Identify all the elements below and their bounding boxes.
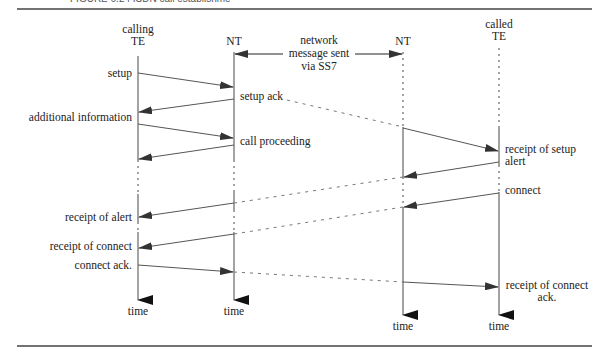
sequence-diagram: calling TE NT NT called TE network messa… <box>0 0 607 354</box>
msg-receipt-of-connect-arrow <box>139 234 234 248</box>
msg-setup-ack-arrow <box>139 99 234 112</box>
calling-te-label-line2: TE <box>131 35 145 47</box>
msg-receipt-of-alert-arrow <box>139 203 234 217</box>
msg-call-proceeding-label: call proceeding <box>240 135 311 148</box>
called-te-label-line2: TE <box>492 30 506 42</box>
network-note-line3: via SS7 <box>301 60 337 72</box>
msg-connect-ack-network <box>234 272 403 282</box>
called-te-label-line1: called <box>485 18 513 30</box>
msg-setup-arrow <box>138 73 233 87</box>
network-note-line2: message sent <box>289 47 350 60</box>
msg-setup-label: setup <box>108 67 133 80</box>
time-label-calling-te: time <box>128 305 148 317</box>
msg-receipt-of-setup-arrow <box>403 128 498 151</box>
nt-right-label: NT <box>395 35 410 47</box>
msg-call-proceeding-arrow <box>139 145 234 159</box>
time-label-nt-left: time <box>224 305 244 317</box>
msg-connect-label: connect <box>505 184 542 196</box>
msg-connect-arrow <box>404 193 499 207</box>
msg-setup-ack-label: setup ack <box>240 90 283 103</box>
msg-setup-ack-network <box>287 100 403 127</box>
msg-receipt-of-connect-ack-label-line2: ack. <box>538 291 557 303</box>
nt-left-label: NT <box>226 35 241 47</box>
msg-alert-label: alert <box>505 155 526 167</box>
time-label-nt-right: time <box>393 320 413 332</box>
msg-connect-ack-arrow <box>138 265 233 272</box>
msg-receipt-of-alert-label: receipt of alert <box>65 211 133 224</box>
msg-connect-ack-label: connect ack. <box>75 259 133 271</box>
msg-receipt-of-connect-label: receipt of connect <box>50 240 133 253</box>
msg-alert-arrow <box>404 162 499 177</box>
msg-additional-info-arrow <box>138 124 233 138</box>
msg-alert-network <box>234 177 403 203</box>
msg-receipt-of-connect-ack-arrow <box>403 282 498 287</box>
time-label-called-te: time <box>489 320 509 332</box>
msg-additional-info-label: additional information <box>29 111 132 123</box>
network-note-line1: network <box>300 34 338 46</box>
msg-connect-network <box>234 207 403 234</box>
